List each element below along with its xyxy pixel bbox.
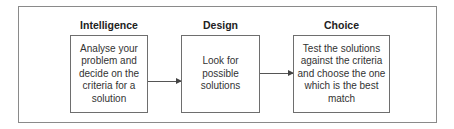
box-design: Look for possible solutions [181, 35, 260, 113]
arrow-right-icon [260, 73, 293, 74]
heading-design: Design [181, 19, 260, 31]
heading-choice: Choice [293, 19, 390, 31]
arrow-right-icon [148, 81, 181, 82]
heading-intelligence: Intelligence [70, 19, 148, 31]
box-choice-text: Test the solutions against the criteria … [297, 43, 386, 106]
box-intelligence: Analyse your problem and decide on the c… [70, 35, 148, 113]
box-intelligence-text: Analyse your problem and decide on the c… [75, 43, 143, 106]
box-choice: Test the solutions against the criteria … [293, 35, 390, 113]
box-design-text: Look for possible solutions [196, 55, 245, 93]
